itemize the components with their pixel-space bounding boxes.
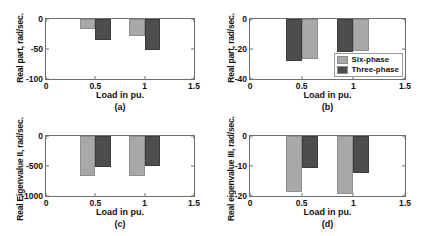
- x-tick-mark: [46, 76, 47, 79]
- x-axis-label-a: Load in pu.: [45, 90, 195, 100]
- plot-area-a: 0-50-10000.511.5: [45, 18, 195, 80]
- panel-caption-a: (a): [45, 102, 195, 112]
- y-tick-mark: [191, 49, 194, 50]
- figure-root: Real part, rad/sec. 0-50-10000.511.5 Loa…: [0, 0, 421, 236]
- x-axis-label-c: Load in pu.: [45, 207, 195, 217]
- y-tick-label: 0: [38, 14, 43, 24]
- bar-three-0.5: [95, 136, 110, 167]
- chart-panel-b: Real part, rad/sec. Six-phase Three-phas…: [211, 0, 421, 118]
- chart-panel-c: Real Eigenvalue II, rad/sec. 0-500-10000…: [0, 117, 210, 235]
- x-tick-mark: [250, 193, 251, 196]
- x-tick-mark: [405, 19, 406, 22]
- bar-six-0.5: [80, 136, 95, 176]
- y-tick-label: -100: [26, 74, 43, 84]
- x-tick-mark: [194, 193, 195, 196]
- y-tick-mark: [402, 49, 405, 50]
- y-tick-label: -20: [235, 191, 247, 201]
- x-tick-mark: [405, 136, 406, 139]
- y-tick-label: -40: [235, 74, 247, 84]
- x-tick-mark: [250, 19, 251, 22]
- y-tick-label: -10: [235, 161, 247, 171]
- y-tick-label: 0: [38, 131, 43, 141]
- x-tick-mark: [301, 76, 302, 79]
- x-tick-mark: [405, 76, 406, 79]
- bar-six-0.5: [80, 19, 95, 29]
- x-tick-mark: [194, 19, 195, 22]
- bar-three-0.5: [286, 19, 302, 61]
- legend-swatch-icon-six-phase: [337, 56, 348, 64]
- y-tick-mark: [402, 166, 405, 167]
- x-tick-mark: [250, 136, 251, 139]
- y-tick-label: -1000: [21, 191, 43, 201]
- y-tick-label: 0: [242, 131, 247, 141]
- bar-three-0.5: [95, 19, 110, 40]
- bar-six-0.5: [286, 136, 302, 192]
- x-tick-mark: [46, 19, 47, 22]
- x-axis-label-d: Load in pu.: [249, 207, 406, 217]
- x-tick-mark: [194, 136, 195, 139]
- y-axis-label-a: Real part, rad/sec.: [13, 0, 27, 96]
- bar-six-1: [353, 19, 369, 51]
- bar-three-1: [353, 136, 369, 173]
- bar-six-1: [129, 136, 144, 176]
- x-tick-mark: [95, 76, 96, 79]
- x-tick-mark: [250, 76, 251, 79]
- y-tick-label: 0: [242, 14, 247, 24]
- y-tick-label: -20: [235, 44, 247, 54]
- legend-item-six-phase: Six-phase: [337, 55, 399, 64]
- y-tick-mark: [250, 49, 253, 50]
- legend-label-six-phase: Six-phase: [351, 55, 389, 64]
- y-tick-mark: [191, 166, 194, 167]
- bar-six-1: [337, 136, 353, 194]
- legend-label-three-phase: Three-phase: [351, 65, 399, 74]
- bar-three-1: [145, 136, 160, 166]
- bar-three-0.5: [302, 136, 318, 168]
- legend-swatch-icon-three-phase: [337, 66, 348, 74]
- y-tick-mark: [46, 49, 49, 50]
- plot-area-c: 0-500-100000.511.5: [45, 135, 195, 197]
- panel-caption-b: (b): [249, 102, 406, 112]
- x-tick-mark: [95, 193, 96, 196]
- y-tick-mark: [46, 166, 49, 167]
- y-tick-mark: [250, 166, 253, 167]
- chart-panel-a: Real part, rad/sec. 0-50-10000.511.5 Loa…: [0, 0, 210, 118]
- panel-caption-d: (d): [249, 219, 406, 229]
- x-tick-mark: [46, 193, 47, 196]
- bar-six-0.5: [302, 19, 318, 59]
- plot-area-b: Six-phase Three-phase 0-20-4000.511.5: [249, 18, 406, 80]
- bar-three-1: [337, 19, 353, 52]
- x-axis-label-b: Load in pu.: [249, 90, 406, 100]
- plot-area-d: 0-10-2000.511.5: [249, 135, 406, 197]
- x-tick-mark: [144, 193, 145, 196]
- x-tick-mark: [144, 76, 145, 79]
- x-tick-mark: [301, 193, 302, 196]
- y-axis-label-c: Real Eigenvalue II, rad/sec.: [13, 117, 27, 221]
- x-tick-mark: [194, 76, 195, 79]
- panel-caption-c: (c): [45, 219, 195, 229]
- x-tick-mark: [46, 136, 47, 139]
- y-tick-label: -50: [31, 44, 43, 54]
- bar-three-1: [145, 19, 160, 50]
- legend: Six-phase Three-phase: [334, 53, 403, 77]
- legend-item-three-phase: Three-phase: [337, 65, 399, 74]
- bar-six-1: [129, 19, 144, 36]
- x-tick-mark: [405, 193, 406, 196]
- y-tick-label: -500: [26, 161, 43, 171]
- chart-panel-d: Real eigenvalue III, rad/sec. 0-10-2000.…: [211, 117, 421, 235]
